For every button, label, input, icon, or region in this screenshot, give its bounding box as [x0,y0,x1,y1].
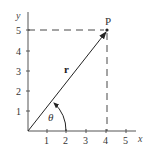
y-tick-label-1: 1 [16,106,21,117]
angle-theta-label: θ [48,111,54,123]
point-p-label: P [105,15,111,27]
x-axis-label: x [137,133,143,144]
vector-r-arrow [28,32,106,131]
x-tick-label-1: 1 [44,135,49,146]
y-tick-label-5: 5 [16,25,21,36]
vector-r-label: r [64,63,69,75]
y-axis-label: y [15,10,21,21]
x-tick-label-4: 4 [103,135,108,146]
point-p-dot [105,28,108,31]
x-tick-label-3: 3 [83,135,88,146]
position-vector-diagram: 1 2 3 4 5 1 2 3 4 5 x y P r θ [0,0,153,149]
y-tick-label-3: 3 [16,66,21,77]
y-tick-label-2: 2 [16,86,21,97]
x-tick-label-2: 2 [63,135,68,146]
x-tick-label-5: 5 [123,135,128,146]
angle-theta-arc [54,103,66,131]
y-tick-label-4: 4 [16,46,21,57]
